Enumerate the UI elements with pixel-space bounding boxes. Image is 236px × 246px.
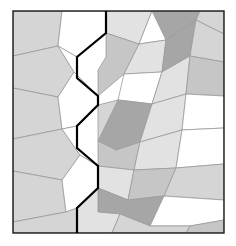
polygon-tiling-figure [0,0,236,246]
tile-polygon [186,56,224,96]
tile-group [13,11,224,233]
tiling-canvas [0,0,236,246]
tile-polygon [182,94,224,130]
tile-polygon [176,128,224,168]
